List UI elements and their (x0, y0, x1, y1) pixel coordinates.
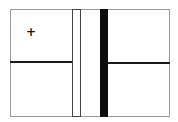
white-vertical-bar (72, 9, 81, 117)
black-vertical-bar (100, 9, 108, 117)
right-horizontal-divider (108, 62, 170, 64)
plus-marker-icon: + (26, 26, 36, 38)
left-horizontal-divider (10, 61, 72, 63)
